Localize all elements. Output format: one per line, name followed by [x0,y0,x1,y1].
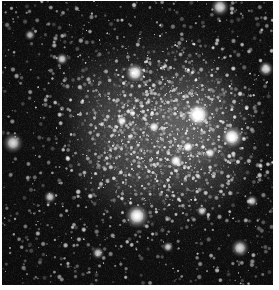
page-margin-top [0,0,279,1]
image-page [0,0,279,290]
page-margin-right [273,0,279,290]
page-margin-bottom [0,285,279,290]
star-field-canvas [2,1,273,285]
page-margin-left [0,0,2,290]
astronomical-image-plate [2,1,273,285]
